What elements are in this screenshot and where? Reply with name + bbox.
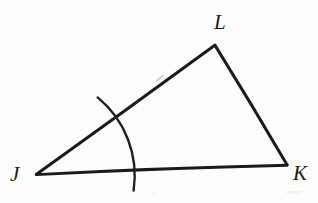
vertex-label-l: L xyxy=(214,12,226,33)
vertex-label-j: J xyxy=(10,164,19,185)
geometry-figure: J K L xyxy=(0,0,318,203)
tick-mark-jl xyxy=(157,76,163,81)
vertex-label-k: K xyxy=(293,163,307,184)
side-jl xyxy=(37,45,215,174)
angle-arc-j xyxy=(98,97,135,190)
triangle-diagram-canvas xyxy=(0,0,318,203)
side-lk xyxy=(215,46,287,165)
side-jk xyxy=(36,165,287,174)
